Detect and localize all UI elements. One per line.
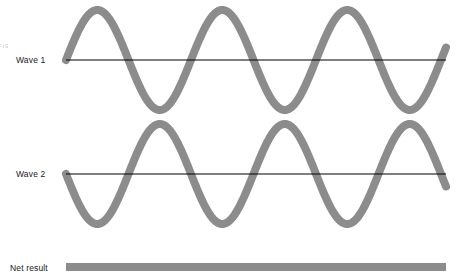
wave-1-group xyxy=(66,10,446,110)
wave-2-group xyxy=(66,124,446,224)
wave-canvas xyxy=(0,0,457,280)
wave-2-label: Wave 2 xyxy=(16,170,45,179)
interference-figure: F I G Wave 1 Wave 2 Net result xyxy=(0,0,457,280)
wave-1-label: Wave 1 xyxy=(16,56,45,65)
net-result-label: Net result xyxy=(10,264,48,273)
